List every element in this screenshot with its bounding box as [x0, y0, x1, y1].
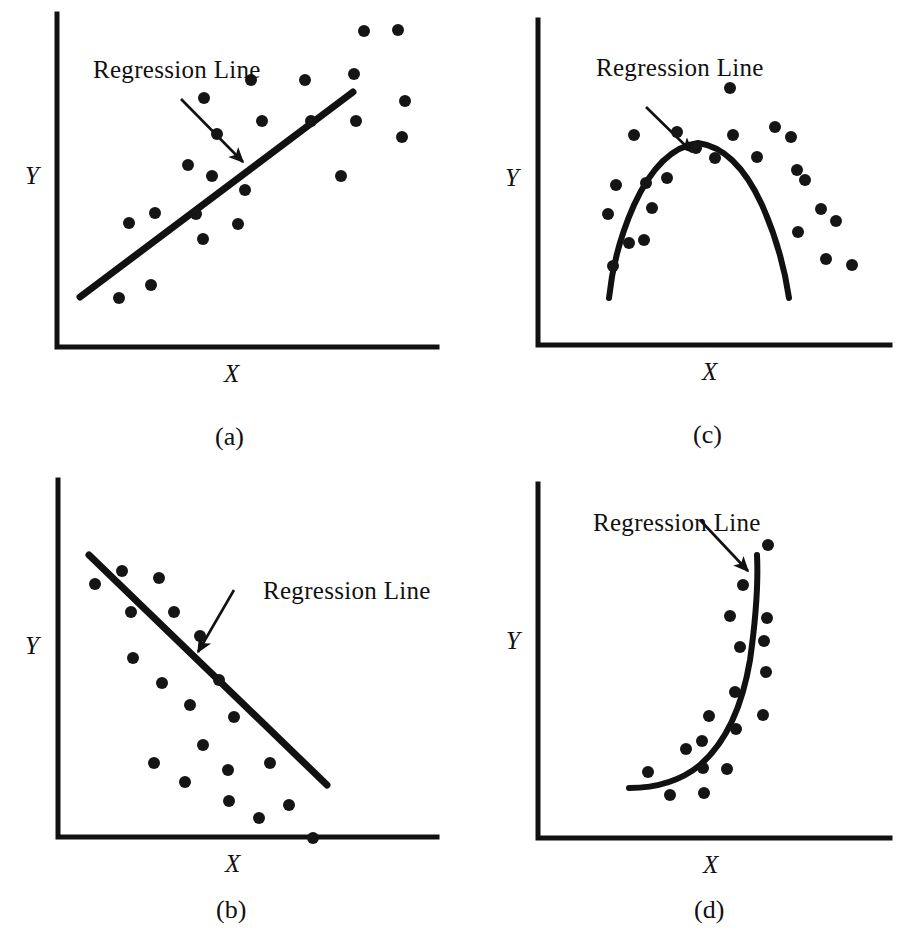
data-point: [228, 711, 240, 723]
panel-b-axes: [58, 480, 437, 837]
axis-lines: [538, 484, 890, 838]
data-point: [758, 635, 770, 647]
panel-a-annotation-arrow: [181, 99, 243, 162]
data-point: [299, 74, 311, 86]
data-point: [149, 207, 161, 219]
data-point: [127, 652, 139, 664]
data-point: [646, 202, 658, 214]
data-point: [283, 799, 295, 811]
data-point: [737, 579, 749, 591]
data-point: [799, 174, 811, 186]
data-point: [730, 723, 742, 735]
data-point: [197, 233, 209, 245]
data-point: [396, 131, 408, 143]
data-point: [607, 260, 619, 272]
data-point: [785, 131, 797, 143]
regression-line: [80, 92, 353, 297]
data-point: [640, 177, 652, 189]
data-point: [815, 203, 827, 215]
panel-b-datapoints: [89, 565, 319, 844]
data-point: [724, 610, 736, 622]
data-point: [696, 735, 708, 747]
data-point: [697, 762, 709, 774]
data-point: [213, 674, 225, 686]
data-point: [153, 572, 165, 584]
panel-d-datapoints: [642, 539, 774, 801]
data-point: [239, 184, 251, 196]
data-point: [671, 126, 683, 138]
data-point: [830, 215, 842, 227]
data-point: [638, 234, 650, 246]
panel-d: [538, 484, 890, 838]
data-point: [709, 152, 721, 164]
data-point: [698, 787, 710, 799]
data-point: [769, 121, 781, 133]
data-point: [197, 739, 209, 751]
panel-caption-b: (b): [216, 897, 246, 923]
panel-b: [58, 480, 437, 844]
data-point: [610, 179, 622, 191]
data-point: [190, 208, 202, 220]
data-point: [198, 92, 210, 104]
data-point: [211, 128, 223, 140]
data-point: [232, 218, 244, 230]
data-point: [680, 743, 692, 755]
data-point: [729, 686, 741, 698]
axis-label-x-c: X: [702, 359, 717, 384]
data-point: [156, 677, 168, 689]
data-point: [623, 237, 635, 249]
panel-caption-d: (d): [694, 897, 724, 923]
data-point: [757, 709, 769, 721]
data-point: [194, 630, 206, 642]
arrow-icon: [181, 99, 243, 162]
annotation-regression-line-c: Regression Line: [596, 55, 764, 80]
data-point: [206, 170, 218, 182]
annotation-regression-line-b: Regression Line: [263, 578, 431, 603]
data-point: [168, 606, 180, 618]
data-point: [734, 641, 746, 653]
data-point: [335, 170, 347, 182]
arrow-icon: [198, 590, 234, 652]
axis-label-x-b: X: [225, 851, 240, 876]
regression-line: [609, 143, 789, 298]
panel-c-regression-line: [609, 143, 789, 298]
data-point: [664, 789, 676, 801]
data-point: [305, 115, 317, 127]
data-point: [253, 812, 265, 824]
data-point: [628, 129, 640, 141]
data-point: [123, 217, 135, 229]
annotation-regression-line-a: Regression Line: [93, 57, 261, 82]
data-point: [89, 578, 101, 590]
data-point: [264, 757, 276, 769]
data-point: [761, 612, 773, 624]
data-point: [661, 172, 673, 184]
data-point: [846, 259, 858, 271]
data-point: [724, 82, 736, 94]
data-point: [184, 699, 196, 711]
panel-caption-a: (a): [215, 424, 244, 450]
data-point: [399, 95, 411, 107]
data-point: [358, 25, 370, 37]
axis-label-y-c: Y: [505, 165, 519, 190]
data-point: [703, 710, 715, 722]
panel-c-annotation-arrow: [646, 107, 692, 152]
axis-label-x-a: X: [224, 361, 239, 386]
panel-d-regression-line: [629, 555, 757, 788]
data-point: [179, 776, 191, 788]
data-point: [642, 766, 654, 778]
data-point: [392, 24, 404, 36]
panel-b-annotation-arrow: [198, 590, 234, 652]
data-point: [125, 606, 137, 618]
data-point: [820, 253, 832, 265]
panel-c-datapoints: [602, 82, 858, 272]
data-point: [145, 279, 157, 291]
axis-lines: [58, 480, 437, 837]
data-point: [256, 115, 268, 127]
annotation-regression-line-d: Regression Line: [593, 510, 761, 535]
axis-label-x-d: X: [703, 852, 718, 877]
data-point: [751, 151, 763, 163]
figure-canvas: [0, 0, 917, 943]
data-point: [350, 115, 362, 127]
data-point: [348, 68, 360, 80]
panel-caption-c: (c): [693, 422, 722, 448]
